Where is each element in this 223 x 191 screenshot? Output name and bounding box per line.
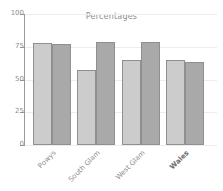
- bar-group: [122, 14, 160, 145]
- y-tick-label: 25: [5, 108, 24, 115]
- bar[interactable]: [77, 70, 96, 145]
- x-tick-label: Wales: [143, 149, 191, 191]
- y-tick-label: 50: [5, 76, 24, 83]
- bar[interactable]: [185, 62, 204, 145]
- bar[interactable]: [96, 42, 115, 145]
- gridline: [25, 145, 217, 146]
- bar-group: [166, 14, 204, 145]
- bar[interactable]: [141, 42, 160, 145]
- y-tick-label: 100: [5, 10, 24, 17]
- x-tick-label: South Glam: [54, 149, 102, 191]
- y-tick-label: 0: [5, 141, 24, 148]
- plot-area: [25, 14, 217, 145]
- bar[interactable]: [166, 60, 185, 145]
- x-tick-label: West Glam: [99, 149, 147, 191]
- bar[interactable]: [52, 44, 71, 145]
- bar-group: [77, 14, 115, 145]
- bar[interactable]: [33, 43, 52, 145]
- bar[interactable]: [122, 60, 141, 145]
- x-tick-label: Powys: [10, 149, 58, 191]
- y-tick-label: 75: [5, 43, 24, 50]
- bar-group: [33, 14, 71, 145]
- bar-chart: Percentages 0255075100 PowysSouth GlamWe…: [0, 0, 223, 191]
